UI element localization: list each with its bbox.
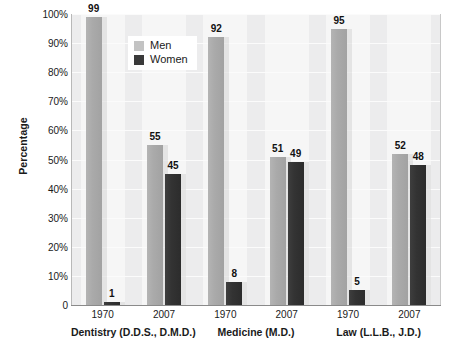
gridline [72,160,440,161]
x-axis-group-label: Medicine (M.D.) [217,326,294,338]
y-axis-tick-0: 0 [4,300,68,311]
y-axis-tick-labels: 010%20%30%40%50%60%70%80%90%100% [0,0,68,350]
bar-men[interactable] [208,37,224,305]
bar-value-label: 55 [141,131,169,142]
bar-value-label: 5 [343,276,371,287]
y-axis-tick-5: 50% [4,154,68,165]
gridline [72,130,440,131]
gridline [72,276,440,277]
bar-value-label: 99 [80,3,108,14]
bar-women[interactable] [226,282,242,305]
y-axis-tick-9: 90% [4,38,68,49]
bar-value-label: 1 [98,288,126,299]
x-axis-line [71,305,441,306]
bar-women[interactable] [410,165,426,305]
bar-men[interactable] [86,17,102,305]
x-axis-group-label: Dentistry (D.D.S., D.M.D.) [71,326,196,338]
bar-value-label: 48 [404,151,432,162]
plot-right-edge [440,14,441,306]
bar-value-label: 95 [325,15,353,26]
y-axis-tick-3: 30% [4,212,68,223]
gridline [72,14,440,15]
x-axis-group-label: Law (L.L.B., J.D.) [336,326,421,338]
x-axis-tick-Law (L.L.B., J.D.)-2007: 2007 [398,309,420,320]
bar-shadow [242,282,247,305]
x-axis-tick-Law (L.L.B., J.D.)-1970: 1970 [337,309,359,320]
bar-value-label: 92 [202,23,230,34]
bar-women[interactable] [349,290,365,305]
bar-chart: Percentage 010%20%30%40%50%60%70%80%90%1… [0,0,463,350]
bar-value-label: 45 [159,160,187,171]
bar-shadow [365,290,370,305]
bar-shadow [304,162,309,305]
bar-shadow [426,165,431,305]
bar-shadow [102,17,107,305]
bar-men[interactable] [270,157,286,305]
gridline [72,101,440,102]
bar-value-label: 49 [282,148,310,159]
legend-swatch-men-icon [134,41,144,51]
bar-shadow [224,37,229,305]
bar-value-label: 8 [220,268,248,279]
legend-swatch-women-icon [134,55,144,65]
x-axis-tick-Medicine (M.D.)-1970: 1970 [214,309,236,320]
y-axis-tick-1: 10% [4,270,68,281]
gridline [72,218,440,219]
bar-men[interactable] [331,29,347,305]
bar-value-label: 52 [386,140,414,151]
x-axis-tick-Medicine (M.D.)-2007: 2007 [276,309,298,320]
legend: Men Women [128,36,197,70]
y-axis-tick-10: 100% [4,9,68,20]
bar-women[interactable] [288,162,304,305]
bar-men[interactable] [392,154,408,305]
legend-item-men: Men [134,40,188,51]
y-axis-tick-2: 20% [4,241,68,252]
bar-shadow [347,29,352,305]
bar-women[interactable] [165,174,181,305]
x-axis-tick-Dentistry (D.D.S., D.M.D.)-2007: 2007 [153,309,175,320]
legend-item-women: Women [134,54,188,65]
y-axis-tick-4: 40% [4,183,68,194]
gridline [72,189,440,190]
gridline [72,247,440,248]
gridline [72,72,440,73]
y-axis-tick-6: 60% [4,125,68,136]
legend-label-women: Women [150,54,188,65]
y-axis-tick-7: 70% [4,96,68,107]
y-axis-tick-8: 80% [4,67,68,78]
legend-label-men: Men [150,40,171,51]
x-axis-tick-Dentistry (D.D.S., D.M.D.)-1970: 1970 [92,309,114,320]
bar-shadow [181,174,186,305]
